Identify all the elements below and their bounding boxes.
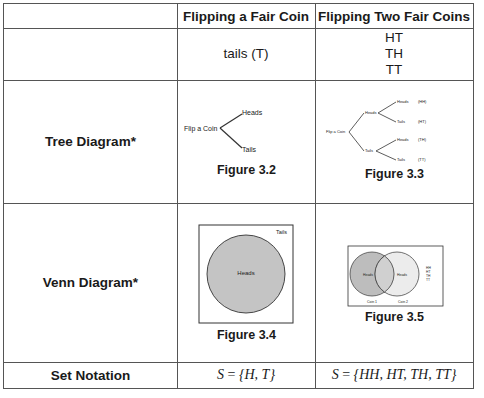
row-label-outcomes bbox=[4, 28, 177, 80]
tree2-outcome-th: (TH) bbox=[418, 137, 427, 142]
outcome-ht: HT bbox=[385, 30, 403, 46]
tree2-l2-tails-2: Tails bbox=[397, 157, 405, 162]
tree-branch-heads: Heads bbox=[242, 109, 263, 116]
equals-sign: = bbox=[224, 367, 239, 383]
two-coin-outcomes: HT TH TT bbox=[315, 28, 473, 80]
tree2-outcome-tt: (TT) bbox=[418, 157, 426, 162]
row-label-tree-diagram: Tree Diagram* bbox=[4, 80, 177, 203]
header-two-coins: Flipping Two Fair Coins bbox=[315, 4, 473, 28]
figure-caption-3-5: Figure 3.5 bbox=[316, 310, 473, 324]
set-symbol: S bbox=[332, 367, 339, 383]
figure-caption-3-4: Figure 3.4 bbox=[178, 328, 315, 342]
tree-branch-tails: Tails bbox=[242, 146, 257, 153]
venn-tails-label: Tails bbox=[276, 229, 287, 235]
venn-diagram-two-coins: Heads Heads Coin 1 Coin 2 HH HT TH TT Fi… bbox=[316, 204, 473, 362]
row-label-set-notation: Set Notation bbox=[4, 362, 177, 388]
header-empty bbox=[4, 4, 177, 28]
row-label-venn-diagram: Venn Diagram* bbox=[4, 203, 177, 362]
tree2-l2-heads-1: Heads bbox=[397, 99, 409, 104]
tree2-outcome-hh: (HH) bbox=[418, 99, 427, 104]
tree2-l2-tails-1: Tails bbox=[397, 119, 405, 124]
venn2-coin1-label: Coin 1 bbox=[367, 300, 377, 304]
venn2-coin2-label: Coin 2 bbox=[398, 300, 408, 304]
tree2-l1-heads: Heads bbox=[365, 110, 377, 115]
tree-diagram-one-coin: Flip a Coin Heads Tails Figure 3.2 bbox=[178, 81, 315, 203]
outcome-th: TH bbox=[385, 46, 403, 62]
tree2-l1-tails: Tails bbox=[365, 148, 373, 153]
tree2-root-label: Flip a Coin bbox=[326, 129, 345, 134]
set-notation-one-coin: S = {H, T} bbox=[177, 362, 315, 388]
venn2-legend-tt: TT bbox=[426, 278, 430, 282]
one-coin-outcome: tails (T) bbox=[177, 28, 315, 80]
venn-diagram-one-coin: Heads Tails Figure 3.4 bbox=[178, 204, 315, 362]
tree2-outcome-ht: (HT) bbox=[418, 119, 427, 124]
venn-heads-label: Heads bbox=[237, 270, 254, 276]
tree-root-label: Flip a Coin bbox=[184, 125, 218, 133]
figure-caption-3-2: Figure 3.2 bbox=[178, 163, 315, 177]
venn2-heads-1: Heads bbox=[363, 273, 373, 277]
venn2-heads-2: Heads bbox=[397, 273, 407, 277]
tree2-l2-heads-2: Heads bbox=[397, 137, 409, 142]
header-one-coin: Flipping a Fair Coin bbox=[177, 4, 315, 28]
set-elements: {HH, HT, TH, TT} bbox=[354, 367, 457, 383]
set-symbol: S bbox=[217, 367, 224, 383]
outcome-tt: TT bbox=[386, 62, 403, 78]
set-elements: {H, T} bbox=[239, 367, 275, 383]
figure-caption-3-3: Figure 3.3 bbox=[316, 167, 473, 181]
tree-diagram-two-coins: Flip a Coin Heads Tails Heads Tails Head… bbox=[316, 81, 473, 203]
set-notation-two-coins: S = {HH, HT, TH, TT} bbox=[315, 362, 473, 388]
sample-space-table: Flipping a Fair Coin Flipping Two Fair C… bbox=[3, 3, 474, 389]
equals-sign: = bbox=[339, 367, 354, 383]
